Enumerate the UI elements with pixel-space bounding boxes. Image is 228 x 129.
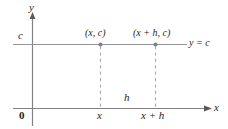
x-axis-arrowhead (204, 106, 212, 112)
point-marker-x-plus-h-c (153, 42, 157, 46)
y-value-label-c: c (18, 30, 23, 41)
y-axis-arrowhead (30, 12, 36, 19)
y-axis-label: y (29, 2, 34, 13)
origin-label: 0 (19, 110, 25, 121)
point-marker-x-c (98, 42, 102, 46)
point-label-x-plus-h-c: (x + h, c) (133, 28, 170, 38)
x-axis-label: x (214, 102, 219, 113)
tick-label-x-plus-h: x + h (141, 110, 164, 121)
point-label-x-c: (x, c) (85, 28, 106, 38)
constant-function-diagram: y c 0 (x, c) (x + h, c) y = c h x x + h … (0, 0, 228, 129)
tick-label-x: x (97, 110, 102, 121)
function-label-y-equals-c: y = c (189, 38, 210, 48)
diagram-canvas (0, 0, 228, 129)
interval-label-h: h (124, 92, 130, 103)
